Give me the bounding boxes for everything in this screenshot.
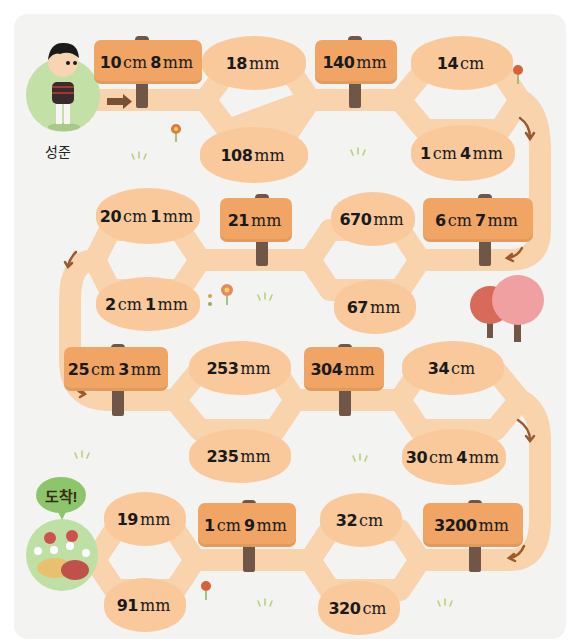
- value-number: 30: [406, 448, 427, 467]
- value-unit: cm: [359, 511, 383, 530]
- goal-label: 도착!: [45, 485, 78, 506]
- value-number: 18: [226, 54, 247, 73]
- value-number: 8: [150, 53, 161, 72]
- value-number: 20: [100, 207, 121, 226]
- sign-node[interactable]: 25cm 3mm: [64, 347, 168, 391]
- value-number: 235: [206, 447, 238, 466]
- oval-node[interactable]: 253mm: [189, 341, 291, 395]
- oval-node[interactable]: 320cm: [318, 581, 400, 635]
- value-unit: cm: [217, 516, 241, 535]
- oval-node[interactable]: 32cm: [320, 493, 402, 547]
- sign-node[interactable]: 21mm: [220, 198, 292, 242]
- value-unit: mm: [240, 359, 270, 378]
- oval-node[interactable]: 1cm 4mm: [411, 125, 515, 181]
- oval-node[interactable]: 30cm 4mm: [402, 429, 506, 485]
- value-unit: mm: [488, 211, 518, 230]
- sign-node[interactable]: 304mm: [304, 347, 384, 391]
- value-unit: cm: [451, 359, 475, 378]
- oval-node[interactable]: 67mm: [334, 280, 416, 334]
- value-number: 7: [475, 211, 486, 230]
- value-number: 32: [336, 511, 357, 530]
- value-number: 14: [437, 54, 458, 73]
- value-number: 140: [322, 53, 354, 72]
- oval-node[interactable]: 20cm 1mm: [96, 188, 200, 244]
- value-unit: cm: [433, 144, 457, 163]
- value-unit: cm: [123, 207, 147, 226]
- oval-node[interactable]: 34cm: [402, 341, 504, 395]
- sign-node[interactable]: 140mm: [315, 40, 397, 84]
- value-number: 320: [328, 599, 360, 618]
- oval-node[interactable]: 19mm: [104, 492, 186, 546]
- value-unit: mm: [163, 53, 193, 72]
- value-unit: cm: [460, 54, 484, 73]
- value-unit: mm: [163, 207, 193, 226]
- sign-node[interactable]: 10cm 8mm: [94, 40, 202, 84]
- oval-node[interactable]: 14cm: [411, 36, 513, 90]
- value-unit: cm: [118, 295, 142, 314]
- value-number: 91: [117, 596, 138, 615]
- value-number: 34: [428, 359, 449, 378]
- value-number: 19: [117, 510, 138, 529]
- sign-node[interactable]: 3200mm: [423, 503, 523, 547]
- oval-node[interactable]: 91mm: [104, 578, 186, 632]
- value-unit: mm: [249, 54, 279, 73]
- value-number: 10: [100, 53, 121, 72]
- value-number: 253: [206, 359, 238, 378]
- value-number: 304: [310, 360, 342, 379]
- value-unit: cm: [362, 599, 386, 618]
- value-number: 108: [220, 146, 252, 165]
- value-unit: cm: [448, 211, 472, 230]
- value-number: 1: [204, 516, 215, 535]
- sign-node[interactable]: 1cm 9mm: [198, 503, 296, 547]
- value-number: 3200: [434, 516, 477, 535]
- value-unit: mm: [140, 510, 170, 529]
- value-unit: cm: [91, 360, 115, 379]
- value-unit: mm: [473, 144, 503, 163]
- value-number: 1: [145, 295, 156, 314]
- value-unit: mm: [373, 210, 403, 229]
- oval-node[interactable]: 2cm 1mm: [96, 277, 200, 331]
- value-number: 21: [228, 211, 249, 230]
- oval-node[interactable]: 18mm: [202, 36, 306, 90]
- value-number: 9: [244, 516, 255, 535]
- value-number: 25: [68, 360, 89, 379]
- oval-node[interactable]: 108mm: [200, 127, 308, 183]
- value-unit: cm: [429, 448, 453, 467]
- value-number: 1: [150, 207, 161, 226]
- value-unit: mm: [356, 53, 386, 72]
- value-unit: mm: [344, 360, 374, 379]
- value-unit: cm: [123, 53, 147, 72]
- oval-node[interactable]: 235mm: [189, 429, 291, 483]
- value-unit: mm: [370, 298, 400, 317]
- value-unit: mm: [251, 211, 281, 230]
- value-number: 4: [460, 144, 471, 163]
- value-number: 670: [339, 210, 371, 229]
- value-unit: mm: [140, 596, 170, 615]
- value-unit: mm: [158, 295, 188, 314]
- goal-garden-icon: [26, 519, 98, 591]
- value-unit: mm: [469, 448, 499, 467]
- value-number: 3: [118, 360, 129, 379]
- value-number: 6: [435, 211, 446, 230]
- value-number: 1: [420, 144, 431, 163]
- value-unit: mm: [131, 360, 161, 379]
- sign-node[interactable]: 6cm 7mm: [423, 198, 533, 242]
- value-unit: mm: [240, 447, 270, 466]
- value-number: 67: [347, 298, 368, 317]
- goal-speech-bubble: 도착!: [36, 477, 86, 513]
- value-unit: mm: [254, 146, 284, 165]
- value-unit: mm: [479, 516, 509, 535]
- character-name: 성준: [45, 141, 71, 161]
- value-unit: mm: [257, 516, 287, 535]
- tree-decoration: [470, 275, 544, 342]
- value-number: 4: [456, 448, 467, 467]
- character-icon: [26, 43, 100, 132]
- value-number: 2: [105, 295, 116, 314]
- oval-node[interactable]: 670mm: [331, 192, 415, 246]
